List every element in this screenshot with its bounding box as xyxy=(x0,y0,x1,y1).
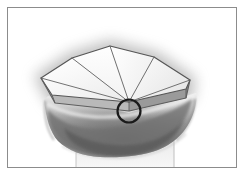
figure-root: Anatomical occlusal surface diagram Face… xyxy=(0,0,245,176)
illustration-canvas xyxy=(0,0,245,176)
